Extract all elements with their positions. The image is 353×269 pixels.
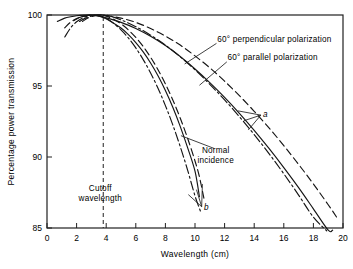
y-tick-label: 100 [28, 10, 42, 20]
annotation-60-perpendicular-polarization: 60° perpendicular polarization [217, 35, 332, 44]
annotation-normal-incidence: Normal [202, 146, 230, 155]
annotation-cutoff-wavelength: Cutoff [89, 184, 112, 193]
annotation-a: a [263, 110, 268, 119]
x-tick-label: 18 [309, 233, 319, 243]
x-axis-title: Wavelength (cm) [161, 249, 229, 259]
y-tick-label: 90 [33, 152, 43, 162]
y-axis-title: Percentage power transmission [6, 58, 16, 186]
x-tick-label: 14 [249, 233, 259, 243]
x-tick-label: 10 [190, 233, 200, 243]
x-tick-label: 20 [338, 233, 348, 243]
x-tick-label: 12 [220, 233, 230, 243]
transmission-chart: 02468101214161820 859095100 Wavelength (… [0, 0, 353, 269]
figure: 02468101214161820 859095100 Wavelength (… [0, 0, 353, 269]
y-tick-label: 95 [33, 81, 43, 91]
x-tick-label: 16 [279, 233, 289, 243]
x-tick-label: 4 [104, 233, 109, 243]
x-tick-label: 6 [133, 233, 138, 243]
x-tick-label: 2 [74, 233, 79, 243]
annotation-b: b [204, 203, 209, 212]
annotation-60-parallel-polarization: 60° parallel polarization [228, 53, 318, 62]
annotation-normal-incidence: incidence [198, 156, 235, 165]
x-tick-label: 0 [45, 233, 50, 243]
x-tick-label: 8 [163, 233, 168, 243]
annotation-cutoff-wavelength: wavelength [78, 194, 123, 203]
y-tick-label: 85 [33, 223, 43, 233]
